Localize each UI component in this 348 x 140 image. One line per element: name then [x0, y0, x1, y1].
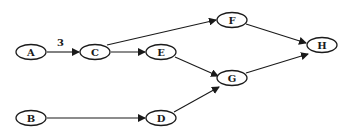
- svg-text:D: D: [157, 113, 166, 124]
- edge-c-f: [107, 20, 216, 45]
- edge-d-g: [174, 87, 219, 112]
- node-a: A: [16, 45, 46, 60]
- svg-text:A: A: [26, 47, 35, 58]
- graph-canvas: 3 A B C D E F G: [0, 0, 348, 140]
- edge-f-h: [246, 24, 306, 43]
- node-g: G: [217, 71, 247, 86]
- edge-e-g: [175, 57, 218, 76]
- node-d: D: [146, 111, 176, 126]
- edge-label-a-c: 3: [57, 37, 64, 48]
- svg-text:G: G: [228, 73, 237, 84]
- svg-text:H: H: [317, 40, 326, 51]
- svg-text:B: B: [27, 113, 35, 124]
- node-b: B: [16, 111, 46, 126]
- svg-text:C: C: [91, 47, 99, 58]
- node-e: E: [146, 45, 176, 60]
- svg-text:F: F: [228, 15, 235, 26]
- node-f: F: [217, 13, 247, 28]
- edge-g-h: [246, 54, 308, 73]
- node-c: C: [80, 45, 110, 60]
- node-h: H: [307, 38, 337, 53]
- svg-text:E: E: [157, 47, 165, 58]
